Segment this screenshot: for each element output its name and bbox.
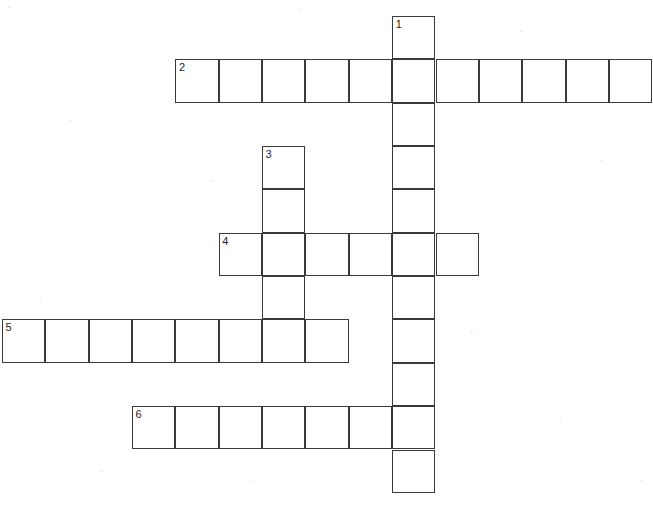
crossword-cell[interactable] <box>392 16 435 59</box>
crossword-cell[interactable] <box>175 59 218 102</box>
crossword-cell[interactable] <box>609 59 652 102</box>
crossword-cell[interactable] <box>436 233 479 276</box>
crossword-cell[interactable] <box>219 319 262 362</box>
crossword-cell[interactable] <box>219 406 262 449</box>
crossword-cell[interactable] <box>392 146 435 189</box>
crossword-cell[interactable] <box>392 450 435 493</box>
crossword-cell[interactable] <box>262 233 305 276</box>
crossword-cell[interactable] <box>262 406 305 449</box>
crossword-puzzle: 123456 <box>0 0 653 508</box>
paper-speck <box>300 10 302 12</box>
crossword-cell[interactable] <box>566 59 609 102</box>
paper-speck <box>100 470 103 472</box>
paper-speck <box>250 480 252 482</box>
crossword-cell[interactable] <box>219 233 262 276</box>
paper-speck <box>470 330 473 332</box>
paper-speck <box>600 160 602 162</box>
paper-speck <box>70 120 72 122</box>
crossword-cell[interactable] <box>2 319 45 362</box>
crossword-cell[interactable] <box>305 406 348 449</box>
crossword-cell[interactable] <box>392 276 435 319</box>
crossword-cell[interactable] <box>349 59 392 102</box>
crossword-cell[interactable] <box>479 59 522 102</box>
crossword-cell[interactable] <box>392 363 435 406</box>
paper-speck <box>560 420 562 422</box>
crossword-cell[interactable] <box>132 406 175 449</box>
paper-speck <box>210 180 213 182</box>
crossword-cell[interactable] <box>392 59 435 102</box>
paper-speck <box>520 30 523 32</box>
crossword-cell[interactable] <box>262 319 305 362</box>
crossword-cell[interactable] <box>392 189 435 232</box>
paper-speck <box>640 480 642 482</box>
crossword-cell[interactable] <box>349 406 392 449</box>
crossword-cell[interactable] <box>522 59 565 102</box>
paper-speck <box>8 6 11 8</box>
crossword-cell[interactable] <box>305 233 348 276</box>
crossword-grid[interactable]: 123456 <box>0 0 653 508</box>
crossword-cell[interactable] <box>132 319 175 362</box>
crossword-cell[interactable] <box>392 233 435 276</box>
crossword-cell[interactable] <box>392 319 435 362</box>
crossword-cell[interactable] <box>436 59 479 102</box>
crossword-cell[interactable] <box>349 233 392 276</box>
paper-speck <box>40 300 42 302</box>
crossword-cell[interactable] <box>262 59 305 102</box>
crossword-cell[interactable] <box>392 103 435 146</box>
crossword-cell[interactable] <box>45 319 88 362</box>
crossword-cell[interactable] <box>262 146 305 189</box>
crossword-cell[interactable] <box>392 406 435 449</box>
crossword-cell[interactable] <box>305 319 348 362</box>
crossword-cell[interactable] <box>262 189 305 232</box>
crossword-cell[interactable] <box>89 319 132 362</box>
crossword-cell[interactable] <box>305 59 348 102</box>
crossword-cell[interactable] <box>262 276 305 319</box>
crossword-cell[interactable] <box>175 406 218 449</box>
crossword-cell[interactable] <box>219 59 262 102</box>
crossword-cell[interactable] <box>175 319 218 362</box>
